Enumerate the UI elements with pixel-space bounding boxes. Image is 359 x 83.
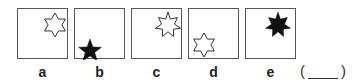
six-point-star-outline-icon — [18, 9, 69, 60]
figure-a-label: a — [17, 64, 68, 80]
open-paren: ( — [300, 62, 305, 79]
figure-e-label: e — [245, 64, 296, 80]
figure-b-label: b — [74, 64, 125, 80]
figure-b-box — [74, 8, 125, 59]
seven-point-star-filled-icon — [246, 9, 297, 60]
figure-c-box — [131, 8, 182, 59]
answer-blank[interactable]: () — [300, 62, 346, 79]
close-paren: ) — [341, 62, 346, 79]
seven-point-star-outline-icon — [132, 9, 183, 60]
figure-d-label: d — [188, 64, 239, 80]
figure-e-box — [245, 8, 296, 59]
five-point-star-filled-icon — [75, 9, 126, 60]
figure-d-box — [188, 8, 239, 59]
six-point-star-outline-icon — [189, 9, 240, 60]
answer-line[interactable] — [308, 64, 338, 79]
figure-c-label: c — [131, 64, 182, 80]
figure-a-box — [17, 8, 68, 59]
